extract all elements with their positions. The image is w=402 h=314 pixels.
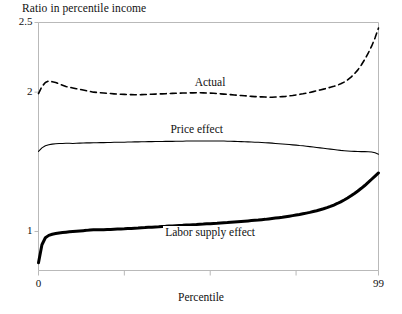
series-label-price-effect: Price effect xyxy=(168,123,224,135)
x-tick-label-99: 99 xyxy=(367,277,391,289)
x-axis-title: Percentile xyxy=(0,291,402,303)
chart-canvas xyxy=(0,0,402,314)
y-tick-label-2: 2 xyxy=(7,85,33,97)
y-tick-label-2-5: 2.5 xyxy=(7,15,33,27)
x-tick-label-0: 0 xyxy=(27,277,51,289)
series-path-labor-supply-effect xyxy=(39,173,379,263)
chart-figure: Ratio in percentile income 2.5 2 1 0 99 … xyxy=(0,0,402,314)
y-tick-label-1: 1 xyxy=(7,224,33,236)
series-path-price-effect xyxy=(39,141,379,154)
series-label-actual: Actual xyxy=(193,76,228,88)
series-label-labor-supply-effect: Labor supply effect xyxy=(163,226,257,238)
